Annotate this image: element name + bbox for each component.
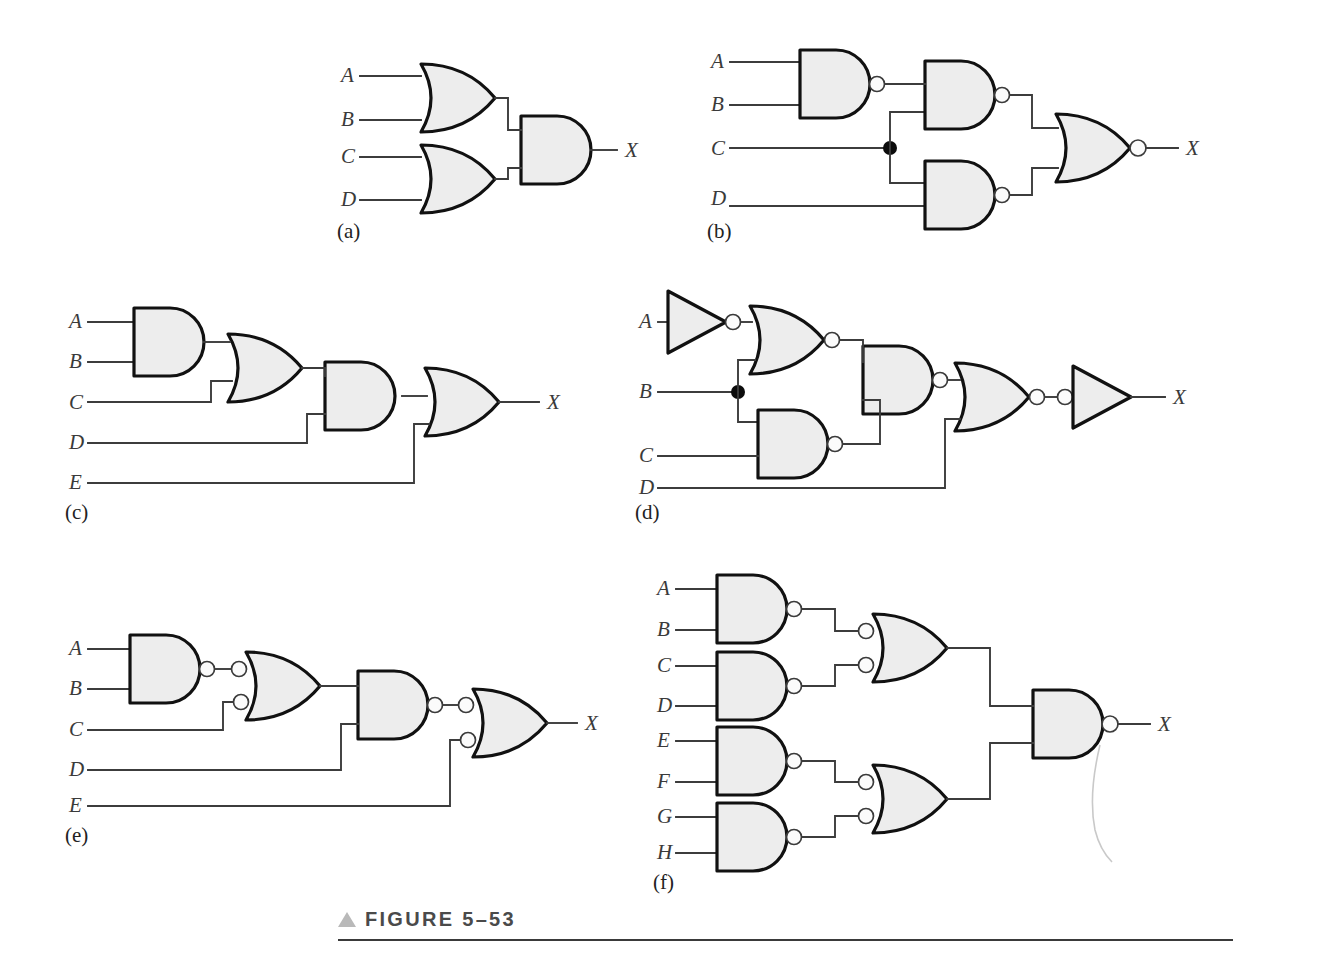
bubble-nand2-e — [428, 698, 443, 713]
nand-gate-ef-f — [717, 727, 787, 795]
input-label-a-A: A — [339, 63, 354, 87]
bubble-nand-bc-d — [828, 437, 843, 452]
nand-gate-gh-f — [717, 803, 787, 871]
part-label-c: (c) — [65, 500, 88, 524]
input-label-a-C: C — [341, 144, 356, 168]
input-label-f-F: F — [656, 769, 670, 793]
input-label-f-D: D — [656, 693, 672, 717]
input-label-b-D: D — [710, 186, 726, 210]
input-label-a-B: B — [341, 107, 354, 131]
circuit-e: A B C D E — [65, 635, 599, 847]
output-label-b: X — [1185, 136, 1200, 160]
input-label-f-H: H — [656, 840, 674, 864]
input-label-e-E: E — [68, 793, 82, 817]
input-label-c-E: E — [68, 470, 82, 494]
circuit-c: A B C D E — [65, 308, 561, 524]
bubble-negor-top-in2-f — [859, 658, 874, 673]
bubble-negor-bottom-in1-f — [859, 775, 874, 790]
bubble-nand-ab-b — [870, 77, 885, 92]
output-label-a: X — [624, 138, 639, 162]
bubble-negor-top-in1-f — [859, 624, 874, 639]
input-label-e-C: C — [69, 717, 84, 741]
nand-gate-out-f — [1033, 690, 1103, 758]
logic-circuits-canvas: A B C D — [0, 0, 1333, 967]
bubble-nor-out-b — [1130, 140, 1146, 156]
wire-b-top-to-nor — [1010, 95, 1058, 128]
wire-d-nor1-to-nand2 — [840, 340, 863, 362]
input-label-c-A: A — [67, 309, 82, 333]
input-label-d-C: C — [639, 443, 654, 467]
and-gate-2-c — [325, 362, 395, 430]
bubble-nand-out-f — [1102, 716, 1118, 732]
output-label-f: X — [1157, 712, 1172, 736]
input-label-a-D: D — [340, 187, 356, 211]
circuit-f: A B C D E F G H — [653, 575, 1172, 894]
wire-a-or2-and — [495, 168, 521, 179]
caption-rule — [338, 939, 1233, 941]
nand-gate-bc-d — [758, 410, 828, 478]
or-gate-out-c — [425, 368, 499, 436]
and-gate-ab-c — [134, 308, 204, 376]
input-label-b-A: A — [709, 49, 724, 73]
input-label-f-A: A — [655, 576, 670, 600]
circuit-a: A B C D — [337, 63, 639, 243]
input-label-f-E: E — [656, 728, 670, 752]
or-gate-ab-a — [421, 64, 495, 132]
wire-a-or1-and — [495, 98, 521, 130]
nor-gate-1-d — [750, 306, 824, 374]
part-label-d: (d) — [635, 500, 660, 524]
input-label-b-C: C — [711, 136, 726, 160]
and-gate-out-a — [521, 116, 591, 184]
output-label-d: X — [1172, 385, 1187, 409]
or-gate-cd-a — [421, 145, 495, 213]
bubble-nand-top-b — [995, 88, 1010, 103]
nand-gate-cd-f — [717, 652, 787, 720]
neg-or-gate-top-f — [873, 614, 947, 682]
bubble-negor-out-in1-e — [459, 698, 474, 713]
input-label-f-B: B — [657, 617, 670, 641]
part-label-f: (f) — [653, 870, 674, 894]
input-label-f-G: G — [657, 804, 672, 828]
nand-gate-ab-b — [800, 50, 870, 118]
circuit-b: A B C D — [707, 49, 1200, 243]
input-label-c-B: B — [69, 349, 82, 373]
nand-gate-top-b — [925, 61, 995, 129]
wire-e-C — [88, 702, 233, 730]
caption-triangle-icon — [338, 912, 356, 927]
nand-gate-ab-f — [717, 575, 787, 643]
wire-b-bottom-to-nor — [1010, 168, 1058, 195]
wire-c-E — [88, 424, 429, 483]
figure-5-53: A B C D — [0, 0, 1333, 967]
wire-f-gh-to-negor-bottom — [802, 816, 858, 837]
inverter-a-d — [668, 291, 726, 353]
part-label-a: (a) — [337, 219, 360, 243]
nand-gate-ab-e — [130, 635, 200, 703]
bubble-nand-ab-f — [787, 602, 802, 617]
wire-b-C-up — [890, 112, 925, 148]
bubble-nand-ab-e — [200, 662, 215, 677]
output-label-e: X — [584, 711, 599, 735]
figure-caption: FIGURE 5–53 — [338, 906, 1238, 950]
wire-c-D — [88, 414, 325, 443]
nand-gate-2-d — [863, 346, 933, 414]
bubble-inverter-a-d — [726, 315, 741, 330]
bubble-nand-ef-f — [787, 754, 802, 769]
input-label-d-B: B — [639, 379, 652, 403]
page-curl-artifact — [1092, 745, 1112, 862]
bubble-nor1-d — [825, 333, 840, 348]
input-label-e-B: B — [69, 676, 82, 700]
nand-gate-2-e — [358, 671, 428, 739]
input-label-d-A: A — [637, 309, 652, 333]
part-label-b: (b) — [707, 219, 732, 243]
neg-or-gate-bottom-f — [873, 765, 947, 833]
input-label-c-C: C — [69, 390, 84, 414]
wire-e-E — [88, 740, 460, 806]
bubble-nor3-d — [1030, 390, 1045, 405]
bubble-negor-out-in2-e — [461, 733, 476, 748]
caption-label: FIGURE 5–53 — [365, 908, 516, 931]
neg-or-gate-out-e — [473, 689, 547, 757]
wire-f-negor-bottom-to-nand — [947, 743, 1033, 799]
bubble-negor1-in1-e — [232, 662, 247, 677]
input-label-e-A: A — [67, 636, 82, 660]
wire-b-C-down — [890, 148, 925, 183]
